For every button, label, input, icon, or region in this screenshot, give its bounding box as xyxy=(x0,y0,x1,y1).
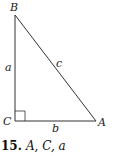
side-label-c: c xyxy=(56,57,62,70)
side-label-a: a xyxy=(5,61,12,74)
vertex-label-b: B xyxy=(9,1,18,14)
problem-number: 15. xyxy=(1,139,22,153)
vertex-label-c: C xyxy=(3,115,12,128)
problem-text: A, C, a xyxy=(26,139,66,153)
vertex-label-a: A xyxy=(97,116,106,129)
problem-caption: 15.A, C, a xyxy=(1,139,66,153)
side-label-b: b xyxy=(52,122,59,135)
triangle-diagram: B C A a c b xyxy=(0,0,115,156)
right-angle-marker xyxy=(15,111,25,121)
